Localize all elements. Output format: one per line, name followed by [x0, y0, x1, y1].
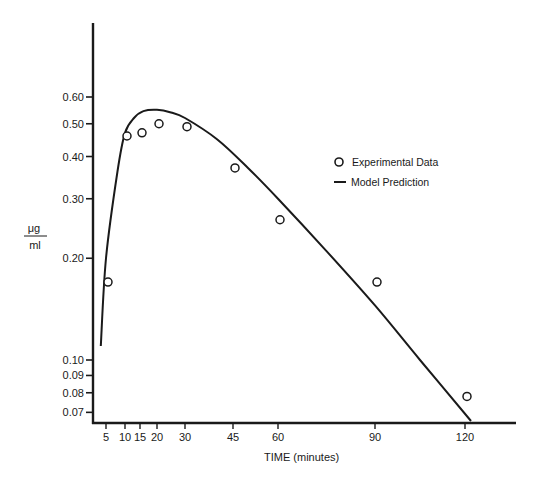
x-tick-label: 120	[456, 431, 474, 443]
legend-label-experimental: Experimental Data	[352, 156, 439, 168]
x-tick-label: 30	[179, 431, 191, 443]
data-point	[276, 216, 284, 224]
axes	[92, 23, 516, 424]
data-point	[463, 392, 471, 400]
data-point	[183, 123, 191, 131]
x-tick-label: 15	[134, 431, 146, 443]
data-point	[373, 278, 381, 286]
x-tick-label: 20	[151, 431, 163, 443]
legend: Experimental Data Model Prediction	[334, 156, 439, 188]
legend-label-model: Model Prediction	[351, 176, 429, 188]
x-tick-label: 5	[103, 431, 109, 443]
y-tick-label: 0.60	[63, 91, 84, 103]
data-point	[104, 278, 112, 286]
y-tick-label: 0.20	[63, 252, 84, 264]
data-point	[231, 164, 239, 172]
y-ticks: 0.070.080.090.100.200.300.400.500.60	[63, 91, 93, 418]
y-tick-label: 0.40	[63, 151, 84, 163]
data-point	[155, 120, 163, 128]
y-tick-label: 0.50	[63, 118, 84, 130]
x-tick-label: 90	[369, 431, 381, 443]
y-axis-numerator: μg	[28, 222, 40, 234]
legend-circle-icon	[335, 158, 343, 166]
x-tick-label: 60	[272, 431, 284, 443]
chart: 0.070.080.090.100.200.300.400.500.60 510…	[0, 0, 538, 482]
data-point	[123, 132, 131, 140]
y-axis-denominator: ml	[29, 239, 41, 251]
x-tick-label: 10	[119, 431, 131, 443]
x-ticks: 510152030456090120	[103, 423, 474, 443]
y-tick-label: 0.10	[63, 354, 84, 366]
x-tick-label: 45	[227, 431, 239, 443]
y-tick-label: 0.08	[63, 387, 84, 399]
y-tick-label: 0.30	[63, 193, 84, 205]
x-axis-title: TIME (minutes)	[264, 451, 339, 463]
y-tick-label: 0.07	[63, 406, 84, 418]
y-axis-title: μg ml	[24, 222, 47, 251]
data-point	[138, 129, 146, 137]
y-tick-label: 0.09	[63, 369, 84, 381]
